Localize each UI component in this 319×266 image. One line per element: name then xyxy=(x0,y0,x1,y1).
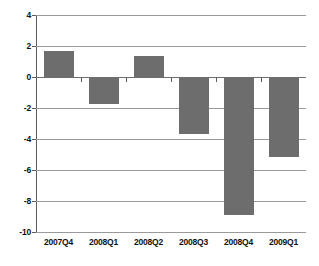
x-tick-mark xyxy=(81,77,82,82)
gridline-neg10 xyxy=(36,232,306,233)
x-tick-label: 2008Q4 xyxy=(216,238,261,247)
bar xyxy=(134,56,164,77)
y-tick-label: -6 xyxy=(0,166,31,175)
y-tick-label: -8 xyxy=(0,197,31,206)
x-tick-label: 2007Q4 xyxy=(36,238,81,247)
x-tick-mark xyxy=(261,77,262,82)
x-tick-mark xyxy=(126,77,127,82)
gridline-neg6 xyxy=(36,170,306,171)
bar xyxy=(224,77,254,215)
x-tick-label: 2008Q1 xyxy=(81,238,126,247)
y-tick-label: -10 xyxy=(0,228,31,237)
y-tick-label: -2 xyxy=(0,104,31,113)
gridline-4 xyxy=(36,15,306,16)
bar-chart: 420-2-4-6-8-10 2007Q42008Q12008Q22008Q32… xyxy=(0,0,319,266)
x-tick-label: 2009Q1 xyxy=(261,238,306,247)
y-tick-label: 0 xyxy=(0,73,31,82)
gridline-neg4 xyxy=(36,139,306,140)
gridline-neg2 xyxy=(36,108,306,109)
bar xyxy=(89,77,119,104)
bar xyxy=(269,77,299,157)
y-tick-label: 2 xyxy=(0,42,31,51)
bar xyxy=(179,77,209,134)
x-tick-label: 2008Q3 xyxy=(171,238,216,247)
x-tick-label: 2008Q2 xyxy=(126,238,171,247)
x-tick-mark xyxy=(216,77,217,82)
x-tick-mark xyxy=(171,77,172,82)
y-tick-label: 4 xyxy=(0,11,31,20)
plot-area xyxy=(36,15,306,232)
gridline-2 xyxy=(36,46,306,47)
x-axis-labels: 2007Q42008Q12008Q22008Q32008Q42009Q1 xyxy=(36,238,306,254)
gridline-neg8 xyxy=(36,201,306,202)
bar xyxy=(44,51,74,77)
y-tick-label: -4 xyxy=(0,135,31,144)
